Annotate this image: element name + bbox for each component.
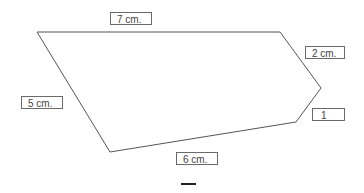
label-left-side: 5 cm.	[21, 96, 63, 109]
label-top-side: 7 cm.	[110, 12, 152, 25]
label-bottom-side: 6 cm.	[176, 152, 218, 165]
label-upper-right-side: 2 cm.	[305, 46, 345, 59]
label-lower-right-side: 1	[312, 108, 345, 121]
footer-dash-mark	[181, 183, 196, 185]
